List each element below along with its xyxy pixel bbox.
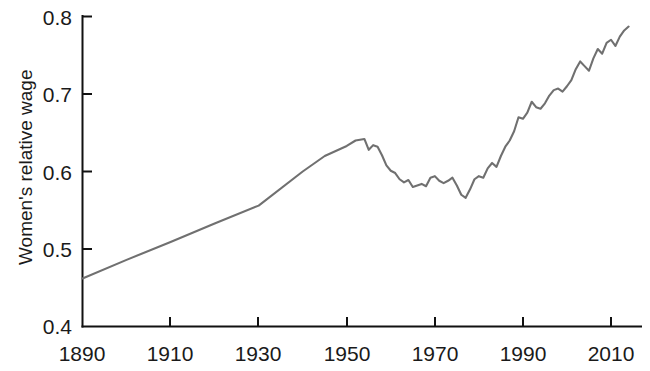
x-tick-label-2010: 2010	[588, 342, 635, 365]
x-tick-marks	[170, 317, 611, 327]
x-tick-label-1910: 1910	[147, 342, 194, 365]
y-tick-label-0.4: 0.4	[43, 315, 73, 338]
x-tick-label-1890: 1890	[59, 342, 106, 365]
data-series-line	[83, 27, 629, 279]
y-axis-title: Women's relative wage	[15, 70, 36, 265]
y-tick-label-0.8: 0.8	[43, 6, 72, 29]
line-chart: Women's relative wage 0.8 0.7 0.6 0.5 0.…	[0, 0, 650, 371]
x-tick-label-1970: 1970	[412, 342, 459, 365]
x-tick-label-1930: 1930	[235, 342, 282, 365]
x-tick-label-1990: 1990	[500, 342, 547, 365]
chart-container: Women's relative wage 0.8 0.7 0.6 0.5 0.…	[0, 0, 650, 371]
y-tick-marks	[83, 17, 93, 250]
y-tick-label-0.6: 0.6	[43, 161, 72, 184]
y-tick-label-0.5: 0.5	[43, 238, 72, 261]
y-tick-label-0.7: 0.7	[43, 83, 72, 106]
x-tick-label-1950: 1950	[324, 342, 371, 365]
